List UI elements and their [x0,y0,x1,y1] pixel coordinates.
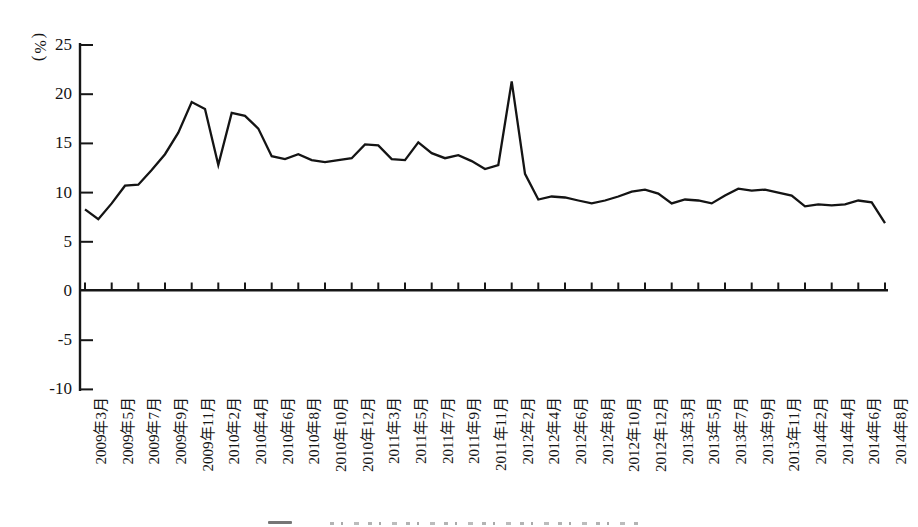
y-axis-tick-label: 25 [0,35,72,55]
y-axis-tick-label: 0 [0,281,72,301]
y-axis-tick-label: -10 [0,379,72,399]
y-axis-tick-label: 15 [0,133,72,153]
y-axis-tick-label: 20 [0,84,72,104]
chart-canvas: (%) 2520151050-5-10 2009年3月2009年5月2009年7… [0,0,918,527]
caption-glyph-top-fragments [330,522,640,525]
y-axis-tick-label: -5 [0,330,72,350]
y-axis-tick-label: 10 [0,183,72,203]
data-line [85,81,885,223]
y-axis-tick-label: 5 [0,232,72,252]
caption-glyph-top-fragment [268,521,292,524]
cropped-caption-fragment [258,518,654,527]
chart-plot [0,0,918,527]
